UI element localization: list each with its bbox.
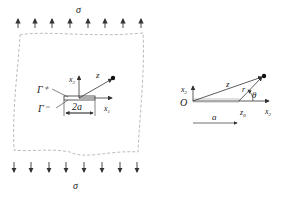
right-x2-label: x2 xyxy=(180,85,188,95)
r-label: r xyxy=(242,85,246,94)
theta-label: θ xyxy=(252,90,257,100)
crack-length-label: 2a xyxy=(72,101,82,112)
gamma-minus-label: Γ⁻ xyxy=(37,103,50,114)
z-vector xyxy=(79,79,112,98)
gamma-plus-label: Γ⁺ xyxy=(36,84,49,95)
right-z-label: z xyxy=(225,79,230,89)
right-x1-label: x2 xyxy=(264,107,272,117)
right-crack xyxy=(193,99,239,102)
diagram-canvas: σ 2a x2 x1 z Γ⁺ Γ⁻ σ O x2 x2 z r θ a xyxy=(0,0,284,197)
stress-label-bottom: σ xyxy=(73,180,79,191)
stress-label-top: σ xyxy=(76,4,82,15)
z-label: z xyxy=(95,70,100,80)
origin-label: O xyxy=(180,97,187,108)
body-boundary xyxy=(14,33,144,155)
bottom-stress-arrows xyxy=(14,162,137,172)
x1-label: x1 xyxy=(103,104,110,114)
top-stress-arrows xyxy=(18,19,141,28)
z0-label: z0 xyxy=(239,108,246,118)
x2-label: x2 xyxy=(68,75,76,85)
crack-diagram: σ 2a x2 x1 z Γ⁺ Γ⁻ σ O x2 x2 z r θ a xyxy=(0,0,284,197)
right-z-point xyxy=(262,74,266,78)
a-label: a xyxy=(212,112,217,122)
z-point xyxy=(111,76,115,80)
